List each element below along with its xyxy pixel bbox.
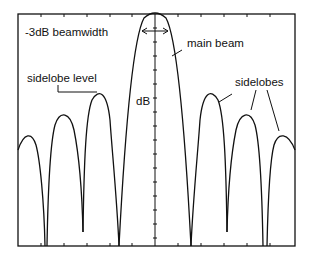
y-axis-label: dB [136, 96, 150, 108]
leader-lines [58, 50, 279, 131]
beamwidth-label: -3dB beamwidth [25, 27, 108, 39]
sidelobe-right-1 [191, 94, 227, 246]
sidelobe-left-2 [47, 115, 83, 246]
sidelobe-level-label: sidelobe level [27, 73, 97, 85]
sidelobe-right-2 [227, 115, 263, 246]
sidelobe-left-3 [18, 136, 45, 246]
sidelobes-label: sidelobes [235, 77, 284, 89]
sidelobe-left-1 [83, 94, 119, 246]
main-beam-label: main beam [187, 38, 244, 50]
sidelobe-right-3 [267, 136, 295, 246]
radiation-pattern-plot [0, 0, 309, 272]
plot-frame [18, 14, 295, 246]
